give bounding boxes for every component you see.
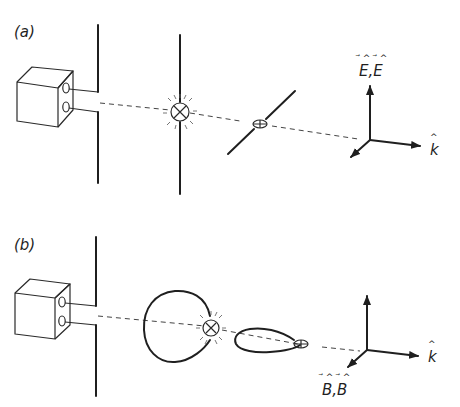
panel-a-label: (a) — [14, 23, 35, 41]
glowing-bulb-icon — [196, 311, 226, 344]
k-vector-label-b: k ^ — [428, 339, 438, 366]
transmitter-box-b — [15, 279, 96, 339]
panel-b-label: (b) — [14, 236, 35, 254]
k-vector-label-a: k ^ — [430, 132, 440, 159]
b-field-label: B,B ⃗ ^ ⃗ ^ — [318, 372, 350, 399]
receive-loop-horizontal-b — [235, 328, 308, 352]
svg-text:k: k — [430, 141, 440, 159]
field-axes-b — [348, 296, 418, 367]
diagram-canvas: (a) — [0, 0, 460, 407]
svg-text:k: k — [428, 348, 438, 366]
transmitter-box-a — [17, 67, 98, 127]
svg-text:B,B: B,B — [322, 381, 347, 399]
beam-line-b1 — [98, 316, 205, 326]
panel-a: (a) — [14, 23, 440, 194]
receive-loop-vertical-b — [144, 291, 210, 362]
svg-text:⃗ ^: ⃗ ^ — [318, 372, 333, 382]
beam-line-b3 — [322, 347, 360, 351]
svg-text:⃗ ^: ⃗ ^ — [355, 53, 370, 63]
beam-line-b2 — [222, 330, 298, 344]
panel-b: (b) — [14, 236, 438, 399]
beam-line-a2 — [190, 113, 240, 121]
field-axes-a — [351, 86, 420, 157]
svg-text:^: ^ — [430, 132, 438, 142]
receive-dipole-tilted-a — [228, 91, 295, 154]
e-field-label: E,E ⃗ ^ ⃗ ^ — [355, 53, 387, 80]
beam-line-a3 — [272, 126, 358, 139]
svg-text:^: ^ — [428, 339, 436, 349]
beam-line-a1 — [100, 103, 170, 110]
svg-text:E,E: E,E — [359, 62, 383, 80]
